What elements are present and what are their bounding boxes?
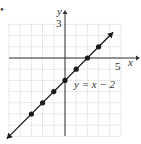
x-tick-label: 5 — [115, 60, 121, 72]
x-axis-label: x — [127, 56, 133, 68]
y-tick-label: 3 — [56, 17, 62, 29]
y-axis-label: y — [56, 5, 62, 17]
data-point — [29, 111, 34, 116]
data-point — [96, 44, 101, 49]
data-point — [40, 100, 45, 105]
data-point — [62, 78, 67, 83]
line-graph: 3 5 y x y = x − 2 — [0, 0, 141, 144]
equation-label: y = x − 2 — [73, 78, 116, 90]
data-point — [51, 89, 56, 94]
data-point — [85, 55, 90, 60]
data-point — [74, 67, 79, 72]
